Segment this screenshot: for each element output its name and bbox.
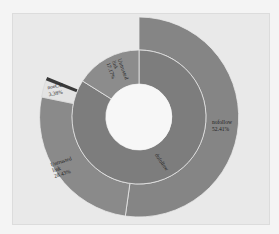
center-hole (106, 84, 172, 150)
label-nofollow-name: nofollow (212, 119, 232, 125)
sunburst-chart: nofollow 52.41% Untrusted link 28.43% no… (0, 0, 279, 234)
label-nofollow-pct: 52.41% (212, 126, 229, 132)
